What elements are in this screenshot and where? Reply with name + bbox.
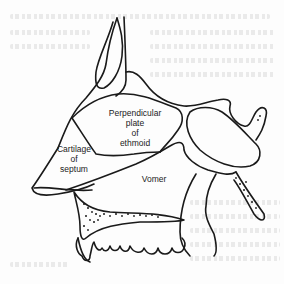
anterior-maxilla — [180, 174, 196, 256]
label-line: Cartilage — [44, 144, 104, 154]
label-line: plate — [100, 118, 170, 128]
posterior-maxilla — [206, 174, 217, 256]
upper-teeth — [76, 238, 184, 261]
diagram-canvas: Perpendicular plate of ethmoid Cartilage… — [0, 0, 284, 284]
sphenoid-sinus — [187, 108, 260, 168]
crista-galli-left — [96, 18, 123, 88]
label-perpendicular-plate: Perpendicular plate of ethmoid — [100, 108, 170, 148]
crista-galli-right — [116, 17, 126, 96]
label-cartilage: Cartilage of septum — [44, 144, 104, 174]
label-line: of — [100, 128, 170, 138]
label-line: Perpendicular — [100, 108, 170, 118]
label-line: of — [44, 154, 104, 164]
label-line: septum — [44, 164, 104, 174]
label-vomer: Vomer — [134, 174, 174, 184]
label-line: Vomer — [134, 174, 174, 184]
label-line: ethmoid — [100, 138, 170, 148]
pterygoid-outline — [234, 172, 264, 220]
hard-palate — [74, 192, 184, 239]
